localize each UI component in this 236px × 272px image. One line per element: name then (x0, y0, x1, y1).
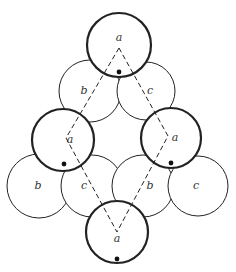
label-outer-b: b (34, 179, 41, 192)
label-mid-right: a (172, 131, 179, 144)
label-upper-b: b (80, 84, 87, 97)
dot-top (117, 70, 122, 75)
dot-mid-right (169, 161, 174, 166)
label-bottom: a (114, 232, 121, 245)
label-top: a (116, 31, 123, 44)
label-outer-c: c (193, 179, 199, 192)
label-upper-c: c (147, 84, 153, 97)
label-mid-left: a (67, 133, 74, 146)
label-inner-c: c (81, 179, 87, 192)
label-inner-b: b (146, 179, 153, 192)
dot-mid-left (62, 162, 67, 167)
dot-bottom (115, 257, 120, 262)
circle-diagram: bcbcbcaaaa (0, 0, 236, 272)
circle-top (87, 13, 151, 77)
circle-mid-left (32, 109, 94, 171)
